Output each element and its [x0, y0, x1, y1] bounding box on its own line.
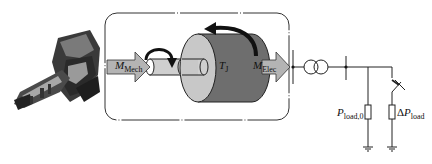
elec-torque-label: MElec [253, 60, 276, 71]
ground-icon [363, 147, 373, 151]
diagram-canvas [0, 0, 432, 164]
breaker-switch-icon [392, 80, 405, 92]
turbine-icon [14, 30, 100, 110]
transformer-icon [304, 60, 328, 74]
load-step-label: ΔPload [397, 107, 425, 118]
power-system-diagram: MMech TJ MElec Pload,0 ΔPload [0, 0, 432, 164]
load-base-label: Pload,0 [337, 107, 364, 118]
load-base-branch [363, 67, 373, 151]
mech-torque-label: MMech [115, 60, 142, 71]
ground-icon [387, 147, 397, 151]
inertia-label: TJ [219, 60, 228, 71]
